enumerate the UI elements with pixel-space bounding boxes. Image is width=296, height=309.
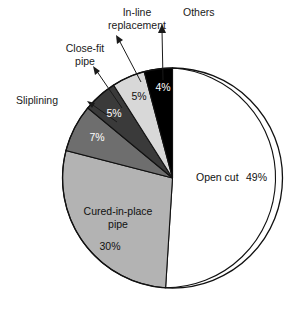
label-sliplining: Sliplining — [16, 94, 58, 106]
pie-chart-svg: In-line replacement Others Close-fit pip… — [0, 0, 296, 309]
label-close-fit-pipe-line2: pipe — [75, 55, 95, 67]
label-cured-in-place-pipe-line1: Cured-in-place — [84, 205, 153, 217]
value-close-fit-pipe: 5% — [106, 107, 121, 119]
label-in-line-replacement-line1: In-line — [123, 6, 152, 18]
value-cured-in-place-pipe: 30% — [99, 240, 120, 252]
label-in-line-replacement-line2: replacement — [108, 19, 166, 31]
value-open-cut: 49% — [246, 171, 267, 183]
label-close-fit-pipe-line1: Close-fit — [66, 42, 105, 54]
value-others: 4% — [155, 81, 170, 93]
arrowhead-in-line-replacement — [116, 35, 123, 44]
value-in-line-replacement: 5% — [131, 90, 146, 102]
value-sliplining: 7% — [89, 131, 104, 143]
pie-chart-figure: In-line replacement Others Close-fit pip… — [0, 0, 296, 309]
label-others: Others — [183, 6, 215, 18]
label-cured-in-place-pipe-line2: pipe — [108, 218, 128, 230]
label-open-cut: Open cut — [196, 171, 239, 183]
leader-line-in-line-replacement — [119, 40, 141, 82]
